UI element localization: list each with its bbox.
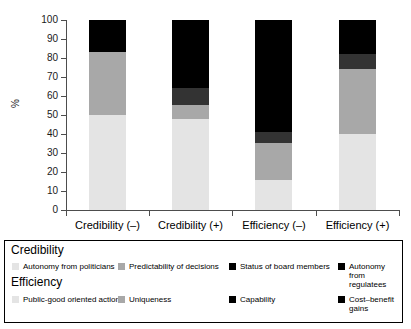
y-tick-100: [61, 20, 66, 21]
y-tick-10: [61, 191, 66, 192]
y-tick-70: [61, 77, 66, 78]
legend-entry-label: Uniqueness: [129, 295, 171, 304]
bar-segment-autonomy-from-regulatees: [89, 20, 126, 52]
y-tick-label-100: 100: [26, 15, 58, 25]
legend-entry-capability[interactable]: Capability: [229, 295, 335, 304]
bar-segment-status-of-board-members: [172, 88, 209, 105]
legend-group-title-credibility: Credibility: [11, 244, 64, 257]
bar-segment-predictability-of-decisions: [172, 105, 209, 118]
stacked-bar-chart-figure: 100 90 80 70 60 50 40 30 20 10 0 % Credi…: [0, 0, 411, 329]
y-tick-label-20: 20: [26, 167, 58, 177]
plot-area: 100 90 80 70 60 50 40 30 20 10 0 % Credi…: [0, 0, 411, 236]
bar-segment-uniqueness: [339, 69, 376, 134]
legend-swatch-icon: [118, 263, 125, 270]
legend-swatch-icon: [229, 263, 236, 270]
y-tick-label-90: 90: [26, 34, 58, 44]
y-tick-label-80: 80: [26, 53, 58, 63]
legend-entry-label: Public-good oriented action: [23, 295, 120, 304]
y-tick-60: [61, 96, 66, 97]
legend-swatch-icon: [12, 296, 19, 303]
y-tick-label-0: 0: [26, 205, 58, 215]
legend-entry-label: Autonomy from politicians: [23, 262, 115, 271]
legend-entry-status-of-board-members[interactable]: Status of board members: [229, 262, 335, 271]
y-tick-80: [61, 58, 66, 59]
legend-swatch-icon: [338, 296, 345, 303]
legend-entry-label: Capability: [240, 295, 275, 304]
bar-segment-cost-benefit-gains: [255, 20, 292, 132]
y-tick-label-40: 40: [26, 129, 58, 139]
bar-segment-predictability-of-decisions: [89, 52, 126, 115]
legend: Credibility Autonomy from politicians Pr…: [4, 240, 403, 323]
bar-efficiency-negative: [255, 20, 292, 210]
legend-entry-autonomy-from-politicians[interactable]: Autonomy from politicians: [12, 262, 117, 271]
y-axis-title: %: [11, 99, 21, 108]
bar-credibility-negative: [89, 20, 126, 210]
legend-swatch-icon: [229, 296, 236, 303]
bar-efficiency-positive: [339, 20, 376, 210]
legend-entry-autonomy-from-regulatees[interactable]: Autonomy from regulatees: [338, 262, 400, 289]
x-axis-line: [66, 210, 400, 211]
x-tick-1: [149, 211, 150, 216]
y-tick-label-10: 10: [26, 186, 58, 196]
bar-segment-cost-benefit-gains: [339, 20, 376, 54]
legend-entry-public-good-oriented-action[interactable]: Public-good oriented action: [12, 295, 120, 304]
y-tick-label-50: 50: [26, 110, 58, 120]
legend-swatch-icon: [338, 263, 345, 270]
legend-entry-predictability-of-decisions[interactable]: Predictability of decisions: [118, 262, 222, 271]
x-axis-label-credibility-positive: Credibility (+): [149, 219, 232, 231]
bar-segment-public-good-oriented-action: [255, 180, 292, 210]
y-tick-label-30: 30: [26, 148, 58, 158]
x-tick-end: [399, 211, 400, 216]
bar-segment-capability: [255, 132, 292, 143]
y-tick-label-60: 60: [26, 91, 58, 101]
legend-entry-label: Status of board members: [240, 262, 330, 271]
y-tick-20: [61, 172, 66, 173]
legend-entry-cost-benefit-gains[interactable]: Cost–benefit gains: [338, 295, 400, 313]
x-axis-label-efficiency-positive: Efficiency (+): [316, 219, 399, 231]
y-tick-label-70: 70: [26, 72, 58, 82]
legend-swatch-icon: [118, 296, 125, 303]
bar-segment-autonomy-from-politicians: [172, 119, 209, 210]
legend-entry-label: Autonomy from regulatees: [349, 262, 400, 289]
x-tick-2: [232, 211, 233, 216]
x-tick-3: [316, 211, 317, 216]
legend-group-title-efficiency: Efficiency: [11, 276, 62, 289]
y-axis-line: [66, 20, 67, 211]
legend-swatch-icon: [12, 263, 19, 270]
y-tick-30: [61, 153, 66, 154]
legend-entry-label: Predictability of decisions: [129, 262, 219, 271]
y-tick-90: [61, 39, 66, 40]
bar-segment-autonomy-from-regulatees: [172, 20, 209, 88]
x-axis-label-credibility-negative: Credibility (–): [66, 219, 149, 231]
bar-segment-capability: [339, 54, 376, 69]
y-tick-40: [61, 134, 66, 135]
y-tick-50: [61, 115, 66, 116]
bar-credibility-positive: [172, 20, 209, 210]
legend-entry-label: Cost–benefit gains: [349, 295, 394, 313]
bar-segment-public-good-oriented-action: [339, 134, 376, 210]
legend-entry-uniqueness[interactable]: Uniqueness: [118, 295, 222, 304]
x-tick-start: [66, 211, 67, 216]
x-axis-label-efficiency-negative: Efficiency (–): [232, 219, 316, 231]
bar-segment-uniqueness: [255, 143, 292, 179]
bar-segment-autonomy-from-politicians: [89, 115, 126, 210]
